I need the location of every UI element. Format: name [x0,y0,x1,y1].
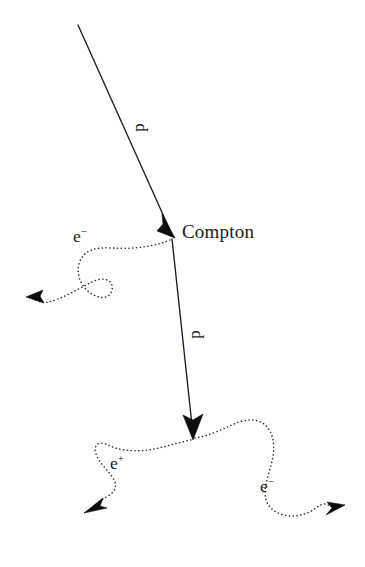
electron-recoil-charge: − [81,225,87,237]
electron-recoil-label: e− [73,228,87,246]
electron-recoil-symbol: e [73,226,81,246]
positron-pair-label: e+ [110,455,124,473]
electron-recoil-track [33,240,170,302]
photon-scattered-label: p [186,330,203,339]
photon-incoming-arrowhead [157,214,175,238]
electron-pair-symbol: e [260,476,268,496]
photon-incoming-track [78,25,169,228]
electron-pair-charge: − [268,475,274,487]
photon-scattered-arrowhead [183,414,203,440]
photon-incoming-label: p [130,123,147,132]
positron-pair-symbol: e [110,453,118,473]
electron-pair-label: e− [260,478,274,496]
electron-pair-arrowhead [326,502,345,515]
positron-pair-charge: + [118,452,124,464]
positron-pair-arrowhead [84,498,107,513]
particle-interaction-diagram: p Compton e− p e+ e− [0,0,365,567]
electron-recoil-arrowhead [26,290,44,303]
electron-pair-track [195,420,331,516]
diagram-canvas [0,0,365,567]
compton-vertex-label: Compton [182,222,254,241]
